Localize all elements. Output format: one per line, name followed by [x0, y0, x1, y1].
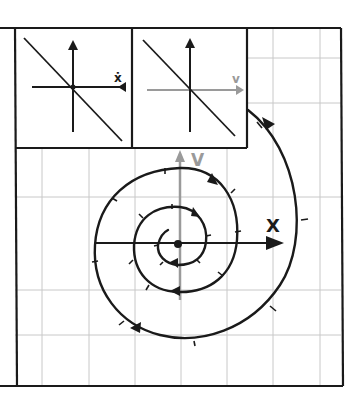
inset-right-v-label: v	[232, 72, 240, 86]
inset-left: ẋ	[24, 38, 126, 141]
v-axis-label: V	[191, 150, 205, 170]
origin-dot	[174, 240, 182, 248]
phase-portrait-figure: ẋ v V X	[0, 0, 359, 404]
inset-left-x-label: ẋ	[114, 71, 122, 85]
x-axis-label: X	[266, 215, 280, 236]
main-axes: V X	[95, 150, 284, 300]
inset-right: v	[143, 38, 244, 136]
